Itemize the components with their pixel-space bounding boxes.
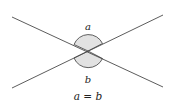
angle-a-wedge [74,35,103,51]
angle-b-wedge [74,51,103,68]
angle-b-label: b [85,74,91,85]
angle-a-label: a [85,21,91,32]
vertical-angles-diagram: a b a = b [0,0,174,108]
equation-label: a = b [74,90,103,102]
